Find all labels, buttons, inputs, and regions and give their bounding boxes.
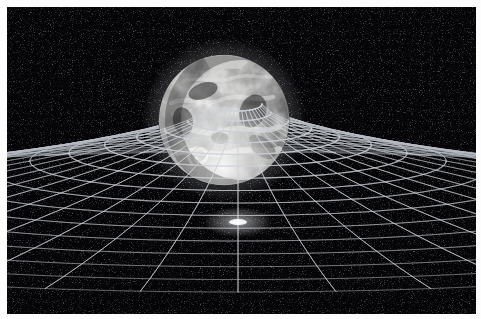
gravity-well-throat: [229, 219, 247, 225]
scene-canvas: [7, 7, 476, 314]
figure-root: Illustration of the Earth resting in a c…: [0, 0, 481, 319]
spacetime-illustration: Illustration of the Earth resting in a c…: [7, 7, 476, 314]
